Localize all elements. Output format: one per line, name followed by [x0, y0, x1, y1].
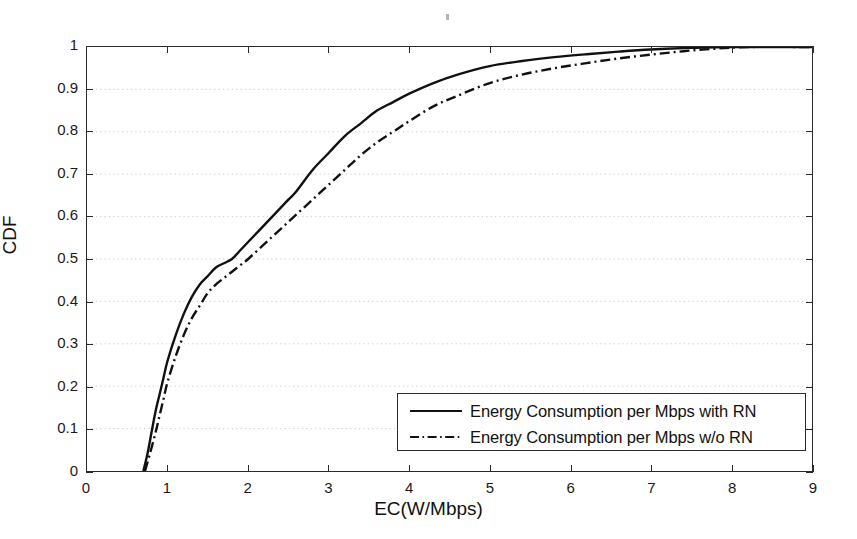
legend-label-with-rn: Energy Consumption per Mbps with RN: [470, 402, 756, 421]
y-tick-mark: [806, 174, 813, 175]
y-tick-mark: [806, 259, 813, 260]
legend-entry-wo-rn: Energy Consumption per Mbps w/o RN: [398, 424, 805, 450]
figure-canvas: CDF 00.10.20.30.40.50.60.70.80.91 012345…: [0, 0, 857, 539]
x-tick-mark: [409, 465, 410, 472]
legend-box: Energy Consumption per Mbps with RN Ener…: [397, 393, 806, 451]
y-tick-mark: [86, 131, 93, 132]
y-tick-label: 0.1: [0, 419, 78, 436]
x-tick-label: 2: [233, 479, 263, 496]
legend-sample-dashdot-line: [408, 430, 464, 444]
y-tick-mark: [86, 429, 93, 430]
y-tick-mark: [86, 344, 93, 345]
x-tick-mark-top: [248, 46, 249, 53]
y-tick-mark: [806, 472, 813, 473]
x-tick-mark-top: [86, 46, 87, 53]
legend-entry-with-rn: Energy Consumption per Mbps with RN: [398, 398, 805, 424]
y-tick-mark: [86, 387, 93, 388]
y-tick-mark: [806, 216, 813, 217]
y-tick-mark: [86, 472, 93, 473]
x-tick-mark-top: [167, 46, 168, 53]
y-tick-label: 0.7: [0, 164, 78, 181]
y-tick-mark: [806, 302, 813, 303]
y-tick-mark: [86, 174, 93, 175]
legend-label-wo-rn: Energy Consumption per Mbps w/o RN: [470, 428, 753, 447]
x-tick-mark-top: [571, 46, 572, 53]
x-tick-mark: [86, 465, 87, 472]
x-tick-mark: [167, 465, 168, 472]
y-tick-mark: [806, 46, 813, 47]
x-tick-mark-top: [490, 46, 491, 53]
y-tick-mark: [86, 46, 93, 47]
x-tick-mark: [732, 465, 733, 472]
x-tick-mark: [328, 465, 329, 472]
x-tick-label: 1: [152, 479, 182, 496]
x-tick-label: 6: [556, 479, 586, 496]
x-tick-label: 7: [636, 479, 666, 496]
y-tick-mark: [806, 387, 813, 388]
x-tick-label: 8: [717, 479, 747, 496]
y-tick-label: 0.6: [0, 206, 78, 223]
x-tick-label: 9: [798, 479, 828, 496]
y-tick-label: 0.9: [0, 79, 78, 96]
x-tick-mark: [248, 465, 249, 472]
x-tick-mark: [490, 465, 491, 472]
x-tick-mark-top: [409, 46, 410, 53]
y-tick-mark: [806, 429, 813, 430]
y-tick-label: 1: [0, 36, 78, 53]
scan-artifact-speck: [446, 14, 449, 20]
y-tick-mark: [86, 259, 93, 260]
x-tick-label: 5: [475, 479, 505, 496]
x-tick-label: 0: [71, 479, 101, 496]
y-tick-mark: [86, 216, 93, 217]
y-tick-label: 0.4: [0, 292, 78, 309]
legend-sample-solid-line: [408, 404, 464, 418]
x-tick-mark-top: [328, 46, 329, 53]
x-tick-label: 3: [313, 479, 343, 496]
x-tick-label: 4: [394, 479, 424, 496]
y-tick-label: 0.8: [0, 121, 78, 138]
y-tick-label: 0.5: [0, 249, 78, 266]
x-tick-mark: [813, 465, 814, 472]
x-tick-mark: [571, 465, 572, 472]
y-tick-label: 0: [0, 462, 78, 479]
x-tick-mark-top: [732, 46, 733, 53]
y-tick-mark: [806, 344, 813, 345]
y-tick-label: 0.2: [0, 377, 78, 394]
y-tick-mark: [806, 89, 813, 90]
y-tick-label: 0.3: [0, 334, 78, 351]
y-tick-mark: [86, 89, 93, 90]
x-axis-label: EC(W/Mbps): [0, 498, 857, 520]
y-tick-mark: [806, 131, 813, 132]
y-tick-mark: [86, 302, 93, 303]
x-tick-mark-top: [813, 46, 814, 53]
x-tick-mark: [651, 465, 652, 472]
x-tick-mark-top: [651, 46, 652, 53]
